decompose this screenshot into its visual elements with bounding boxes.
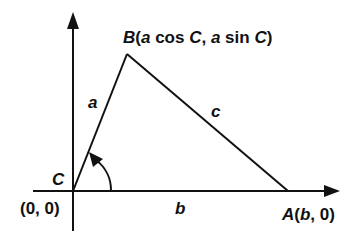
side-c <box>127 54 288 191</box>
x-axis-arrow-icon <box>324 185 340 197</box>
triangle-diagram: B(a cos C, a sin C) a c b C (0, 0) A(b, … <box>0 0 362 234</box>
side-a <box>73 54 127 191</box>
side-c-label: c <box>211 102 221 121</box>
side-b-label: b <box>175 199 185 218</box>
vertex-a-label: A(b, 0) <box>281 205 335 224</box>
angle-arc <box>96 160 111 191</box>
vertex-c-label: C <box>52 170 65 189</box>
vertex-b-label: B(a cos C, a sin C) <box>123 28 272 47</box>
y-axis-arrow-icon <box>67 12 79 29</box>
origin-coords-label: (0, 0) <box>20 199 60 218</box>
side-a-label: a <box>88 93 97 112</box>
angle-c-marker <box>89 152 111 191</box>
